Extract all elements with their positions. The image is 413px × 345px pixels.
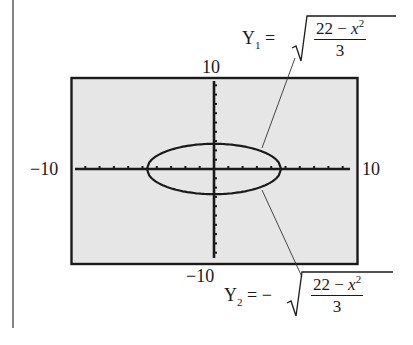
y1-numerator: 22 − x2: [314, 20, 366, 40]
y2-fraction: 22 − x2 3: [311, 276, 363, 315]
y2-numerator: 22 − x2: [311, 276, 363, 296]
y2-minus: −: [262, 285, 272, 305]
y-min-label: −10: [186, 267, 214, 285]
y1-equation-lhs: Y1 =: [242, 29, 275, 47]
y2-equation-lhs: Y2 = −: [224, 286, 272, 304]
y2-denominator: 3: [311, 296, 363, 315]
y2-equals: =: [247, 285, 257, 305]
y1-denominator: 3: [314, 40, 366, 59]
y1-equals: =: [265, 28, 275, 48]
y-max-label: 10: [202, 58, 220, 76]
x-max-label: 10: [362, 160, 380, 178]
y2-subscript: 2: [237, 296, 243, 308]
y2-name: Y: [224, 285, 237, 305]
y1-name: Y: [242, 28, 255, 48]
x-min-label: −10: [30, 160, 58, 178]
y1-fraction: 22 − x2 3: [314, 20, 366, 59]
y1-subscript: 1: [255, 39, 261, 51]
